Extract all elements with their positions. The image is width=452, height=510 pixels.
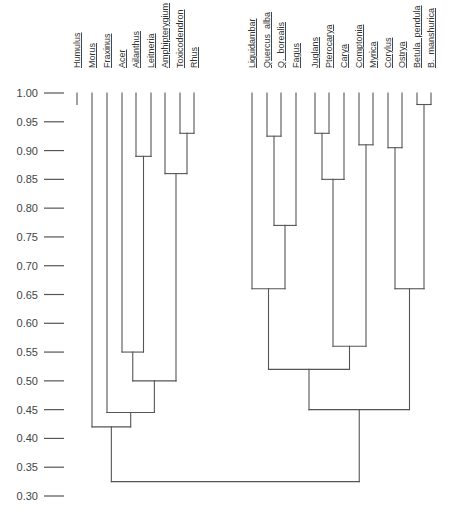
leaf-label: B. manshurica <box>426 8 436 68</box>
leaf-label: Juglans <box>310 36 320 68</box>
leaf-label: Carya <box>339 44 349 68</box>
leaf-label: Pterocarya <box>324 24 334 68</box>
leaf-label: Fagus <box>291 42 301 68</box>
leaf-label: Fraxinus <box>102 33 112 68</box>
leaf-label: Liquidambar <box>247 18 257 68</box>
leaf-label: Amphipterygium <box>160 3 170 68</box>
dendrogram-branches <box>77 93 431 482</box>
y-axis: 1.000.950.900.850.800.750.700.650.600.55… <box>17 87 64 502</box>
leaf-label: Acer <box>117 49 127 68</box>
y-tick-label: 0.35 <box>17 461 38 473</box>
y-tick-label: 0.70 <box>17 260 38 272</box>
leaf-label: Toxicodendron <box>175 9 185 68</box>
y-tick-label: 0.65 <box>17 289 38 301</box>
y-tick-label: 0.80 <box>17 202 38 214</box>
y-tick-label: 0.50 <box>17 375 38 387</box>
y-tick-label: 0.30 <box>17 490 38 502</box>
leaf-label: Morus <box>87 42 97 68</box>
y-tick-label: 0.60 <box>17 317 38 329</box>
y-tick-label: 0.45 <box>17 404 38 416</box>
leaf-label: Ailanthus <box>131 30 141 68</box>
leaf-labels: HumulusMorusFraxinusAcerAilanthusLeitner… <box>72 3 436 68</box>
y-tick-label: 0.55 <box>17 346 38 358</box>
leaf-label: Q. borealis <box>276 21 286 68</box>
dendrogram-chart: 1.000.950.900.850.800.750.700.650.600.55… <box>0 0 452 510</box>
y-tick-label: 0.85 <box>17 173 38 185</box>
leaf-label: Leitneria <box>146 33 156 68</box>
leaf-label: Humulus <box>72 32 82 68</box>
y-tick-label: 0.75 <box>17 231 38 243</box>
leaf-label: Corylus <box>383 37 393 68</box>
leaf-label: Myrica <box>368 42 378 69</box>
leaf-label: Betula pendula <box>412 5 422 68</box>
leaf-label: Comptonia <box>354 24 364 68</box>
y-tick-label: 0.95 <box>17 116 38 128</box>
y-tick-label: 0.90 <box>17 145 38 157</box>
leaf-label: Ostrya <box>397 41 407 68</box>
leaf-label: Rhus <box>189 46 199 68</box>
y-tick-label: 0.40 <box>17 432 38 444</box>
leaf-label: Quercus alba <box>262 12 272 68</box>
y-tick-label: 1.00 <box>17 87 38 99</box>
